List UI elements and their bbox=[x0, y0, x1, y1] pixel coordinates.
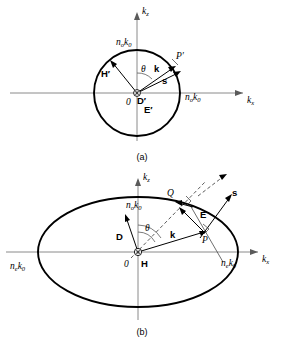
panel-a-vector-H-label: H′ bbox=[101, 68, 111, 79]
panel-b-angle-arc-2 bbox=[138, 232, 155, 242]
figure-container: 0 nok0 nok0 P′ θ k s H′ D′ E′ kx kz (a) bbox=[0, 0, 299, 343]
panel-a-angle-label: θ bbox=[141, 64, 146, 74]
panel-b-angle-label: θ bbox=[145, 223, 150, 233]
panel-a-right-radius-label: nok0 bbox=[185, 92, 201, 103]
panel-b-point-q-label: Q bbox=[167, 188, 174, 198]
panel-a-z-axis bbox=[134, 12, 140, 141]
panel-b-point-p-label: P bbox=[201, 235, 208, 245]
panel-a-top-radius-label: nok0 bbox=[116, 37, 132, 48]
panel-b-vector-D-label: D bbox=[116, 231, 123, 242]
panel-a-caption: (a) bbox=[137, 152, 148, 162]
panel-b-origin-label: 0 bbox=[124, 259, 129, 269]
panel-b-vector-D bbox=[125, 214, 138, 252]
panel-b-x-axis-label: kx bbox=[262, 254, 269, 265]
panel-a: 0 nok0 nok0 P′ θ k s H′ D′ E′ kx kz (a) bbox=[10, 6, 254, 162]
panel-b-top-radius-label: nok0 bbox=[126, 200, 142, 211]
panel-a-vector-s bbox=[137, 71, 181, 93]
panel-a-z-axis-label: kz bbox=[142, 6, 149, 17]
panel-a-vector-E-label: E′ bbox=[144, 104, 153, 115]
panel-a-x-axis bbox=[10, 90, 243, 96]
panel-b-x-axis bbox=[6, 249, 258, 255]
panel-a-vector-k-label: k bbox=[154, 63, 160, 74]
panel-b-caption: (b) bbox=[137, 327, 148, 337]
panel-b: 0 nok0 nek0 nek0 P Q θ k s E D H kx kz (… bbox=[6, 172, 269, 337]
panel-b-origin-symbol bbox=[134, 248, 141, 255]
panel-a-x-axis-label: kx bbox=[247, 95, 254, 106]
panel-a-origin-label: 0 bbox=[126, 97, 131, 107]
panel-b-z-axis-label: kz bbox=[143, 172, 150, 183]
panel-a-vector-s-label: s bbox=[162, 75, 167, 86]
panel-b-vector-E-label: E bbox=[200, 209, 206, 220]
panel-a-vector-H bbox=[110, 60, 137, 93]
panel-a-point-p-label: P′ bbox=[175, 51, 185, 61]
panel-b-vector-s-label: s bbox=[232, 187, 237, 198]
panel-b-left-radius-label: nek0 bbox=[10, 261, 26, 272]
panel-b-vector-H-label: H bbox=[141, 258, 148, 269]
panel-b-right-radius-label: nek0 bbox=[221, 258, 237, 269]
panel-b-vector-k-label: k bbox=[170, 229, 176, 240]
